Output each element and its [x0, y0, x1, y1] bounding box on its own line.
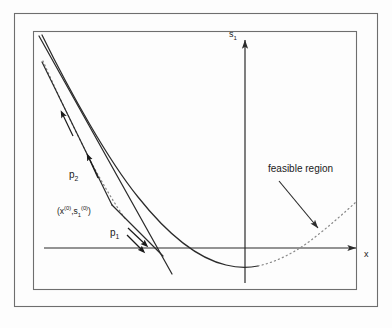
feasible-region-leader-arrow [279, 181, 318, 228]
figure-svg [0, 0, 392, 328]
direction-segment-p2 [42, 62, 112, 205]
arrow-marker-curve-upper [88, 156, 98, 178]
y-axis-label: s1 [229, 30, 237, 39]
x-axis-label: x [364, 250, 369, 259]
direction-label-p2: p2 [69, 170, 78, 180]
tangent-line [39, 36, 172, 274]
outer-border [15, 14, 378, 307]
constraint-curve-dotted-upper [43, 61, 126, 220]
direction-label-p1: p1 [110, 228, 119, 238]
arrow-marker-p2-upper [62, 113, 73, 136]
feasible-region-label: feasible region [268, 164, 333, 174]
diagram-canvas: s1 x p2 p1 (x(0),s1(0)) feasible region [0, 0, 392, 328]
constraint-curve-solid [42, 35, 258, 267]
iterate-point-label: (x(0),s1(0)) [57, 207, 91, 216]
constraint-curve-dotted-right [258, 202, 356, 266]
